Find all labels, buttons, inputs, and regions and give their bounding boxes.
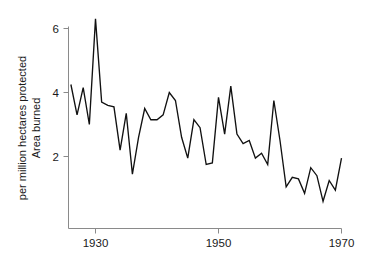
x-tick-label-1950: 1950	[206, 237, 232, 249]
y-tick-label-6: 6	[53, 23, 59, 35]
line-chart: 6 4 2 1930 1950 1970 Area burned per mil…	[0, 0, 374, 258]
y-axis-title-line1: Area burned	[30, 98, 42, 159]
x-tick-label-1970: 1970	[329, 237, 355, 249]
y-tick-label-2: 2	[53, 151, 59, 163]
data-series-line	[71, 19, 342, 201]
x-tick-label-1930: 1930	[83, 237, 109, 249]
y-axis-title-line2: per million hectares protected	[16, 56, 28, 200]
chart-figure: 6 4 2 1930 1950 1970 Area burned per mil…	[0, 0, 374, 258]
y-tick-label-4: 4	[53, 87, 60, 99]
